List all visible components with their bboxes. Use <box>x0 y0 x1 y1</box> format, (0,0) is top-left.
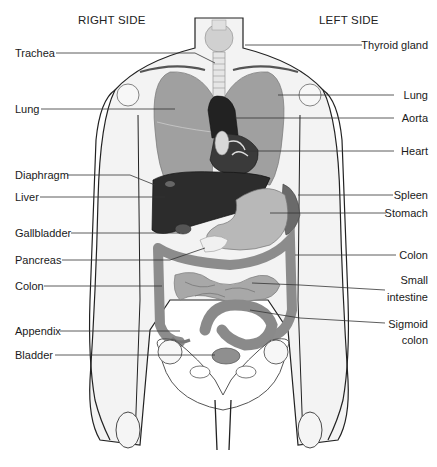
label-colon-ascending: Colon <box>15 280 44 293</box>
label-liver: Liver <box>15 191 39 204</box>
label-colon-descending: Colon <box>399 249 428 262</box>
label-bladder: Bladder <box>15 349 53 362</box>
label-diaphragm: Diaphragm <box>15 169 69 182</box>
left-hand <box>298 412 322 448</box>
right-lung <box>154 72 215 185</box>
bladder <box>212 348 240 364</box>
label-thyroid-gland: Thyroid gland <box>361 39 428 52</box>
anatomy-diagram: RIGHT SIDE LEFT SIDE Trachea Lung Diaphr… <box>0 0 437 467</box>
label-aorta: Aorta <box>402 112 428 125</box>
label-sigmoid-colon-line1: Sigmoid <box>388 318 428 331</box>
right-hand <box>116 412 140 448</box>
label-trachea: Trachea <box>15 47 55 60</box>
trachea <box>213 52 225 97</box>
label-small-intestine-line2: intestine <box>387 291 428 304</box>
label-spleen: Spleen <box>394 189 428 202</box>
label-lung-left: Lung <box>404 89 428 102</box>
label-lung-right: Lung <box>15 103 39 116</box>
label-heart: Heart <box>401 145 428 158</box>
left-side-heading: LEFT SIDE <box>319 14 379 26</box>
sigmoid-colon <box>205 305 272 345</box>
label-appendix: Appendix <box>15 325 61 338</box>
label-sigmoid-colon-line2: colon <box>402 334 428 347</box>
label-gallbladder: Gallbladder <box>15 227 71 240</box>
label-stomach: Stomach <box>385 207 428 220</box>
figure-caption-cropped <box>20 461 420 467</box>
right-side-heading: RIGHT SIDE <box>78 14 146 26</box>
gallbladder <box>175 224 191 234</box>
label-pancreas: Pancreas <box>15 254 61 267</box>
label-small-intestine-line1: Small <box>400 274 428 287</box>
